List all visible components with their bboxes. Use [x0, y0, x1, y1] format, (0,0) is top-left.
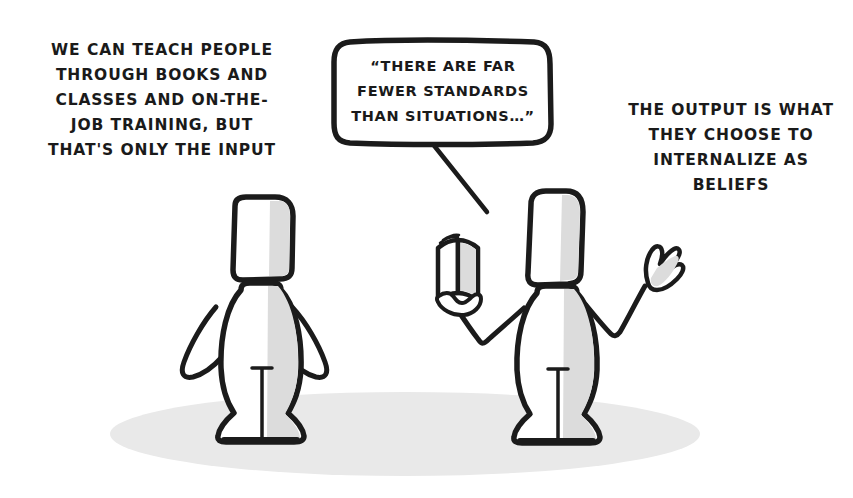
speech-bubble-text: “THERE ARE FAR FEWER STANDARDS THAN SITU… [346, 54, 540, 129]
open-book [437, 235, 481, 315]
left-figure-arm-left [182, 307, 222, 377]
caption-left-input: WE CAN TEACH PEOPLE THROUGH BOOKS AND CL… [22, 38, 302, 163]
ground-shadow-ellipse [110, 392, 700, 476]
cartoon-canvas: WE CAN TEACH PEOPLE THROUGH BOOKS AND CL… [0, 0, 853, 498]
open-book-holding-hand [437, 293, 481, 315]
left-figure-head-shading [269, 201, 290, 276]
caption-right-output: THE OUTPUT IS WHAT THEY CHOOSE TO INTERN… [612, 98, 850, 198]
open-book-shading [461, 243, 476, 297]
speech-bubble-tail [432, 143, 487, 212]
right-figure-head-shading [560, 195, 580, 281]
